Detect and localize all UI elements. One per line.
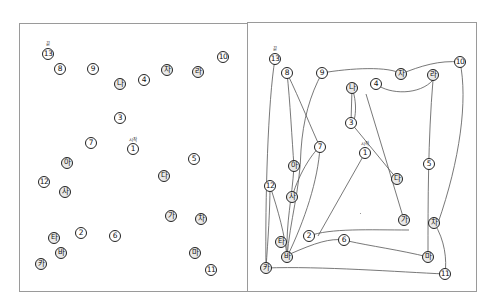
node-left-타: 타	[48, 232, 60, 244]
node-right-10: 10	[454, 56, 466, 68]
node-right-라: 라	[427, 69, 439, 81]
node-right-7: 7	[314, 141, 326, 153]
node-left-4: 4	[138, 74, 150, 86]
node-left-다: 다	[158, 170, 170, 182]
node-left-6: 6	[109, 230, 121, 242]
node-right-아: 아	[288, 160, 300, 172]
node-left-카: 카	[35, 258, 47, 270]
node-left-5: 5	[188, 153, 200, 165]
node-right-13: 13	[269, 53, 281, 65]
node-left-12: 12	[38, 176, 50, 188]
node-left-1: 1	[127, 143, 139, 155]
end-label-left: 끝	[46, 40, 50, 46]
node-left-아: 아	[61, 157, 73, 169]
node-right-카: 카	[260, 262, 272, 274]
node-left-자: 자	[161, 64, 173, 76]
node-right-가: 가	[398, 214, 410, 226]
node-left-7: 7	[85, 137, 97, 149]
node-right-나: 나	[346, 82, 358, 94]
node-left-3: 3	[114, 112, 126, 124]
node-right-다: 다	[391, 173, 403, 185]
node-left-8: 8	[54, 63, 66, 75]
node-right-8: 8	[281, 67, 293, 79]
node-right-4: 4	[370, 78, 382, 90]
node-right-자: 자	[395, 68, 407, 80]
node-right-마: 마	[422, 251, 434, 263]
start-label-left: 시작	[129, 136, 137, 142]
node-left-10: 10	[217, 51, 229, 63]
node-left-13: 13	[42, 48, 54, 60]
node-left-사: 사	[59, 186, 71, 198]
node-right-11: 11	[439, 268, 451, 280]
node-left-차: 차	[195, 213, 207, 225]
node-right-9: 9	[316, 67, 328, 79]
node-right-1: 1	[359, 147, 371, 159]
node-left-11: 11	[205, 264, 217, 276]
trail-drawing	[0, 0, 496, 308]
node-left-라: 라	[192, 66, 204, 78]
node-left-9: 9	[87, 63, 99, 75]
node-right-타: 타	[275, 236, 287, 248]
node-left-2: 2	[75, 227, 87, 239]
node-left-가: 가	[165, 210, 177, 222]
node-left-마: 마	[189, 247, 201, 259]
node-right-바: 바	[281, 251, 293, 263]
node-right-5: 5	[423, 158, 435, 170]
node-right-2: 2	[303, 230, 315, 242]
node-left-나: 나	[114, 78, 126, 90]
pencil-dot	[360, 213, 361, 214]
node-right-12: 12	[264, 180, 276, 192]
node-right-사: 사	[286, 191, 298, 203]
start-label-right: 시작	[361, 140, 369, 146]
node-left-바: 바	[55, 247, 67, 259]
node-right-차: 차	[428, 217, 440, 229]
end-label-right: 끝	[273, 45, 277, 51]
node-right-3: 3	[345, 117, 357, 129]
node-right-6: 6	[338, 234, 350, 246]
